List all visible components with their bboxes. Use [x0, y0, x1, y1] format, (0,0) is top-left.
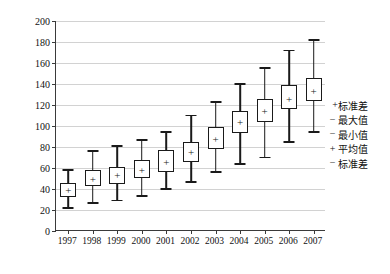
- chart-root: 总电耗（亿 kWh） 020406080100120140160180200 +…: [0, 0, 390, 274]
- boxplot-1999: +: [105, 21, 130, 230]
- x-axis-tick: [216, 230, 217, 234]
- legend-label: 标准差: [338, 98, 368, 113]
- mean-marker: +: [286, 93, 292, 104]
- boxplot-series: +++++++++++: [56, 21, 325, 230]
- mean-marker: +: [311, 86, 317, 97]
- x-axis-tick-label: 2004: [230, 236, 249, 246]
- mean-marker: +: [212, 133, 218, 144]
- legend-symbol: −: [327, 115, 338, 125]
- mean-marker: +: [237, 116, 243, 127]
- max-cap: [185, 115, 196, 117]
- y-axis-tick-label: 20: [10, 205, 50, 216]
- boxplot-2001: +: [154, 21, 179, 230]
- x-axis-tick: [117, 230, 118, 234]
- legend-item-标准差: −标准差: [327, 156, 389, 171]
- max-cap: [259, 67, 270, 69]
- legend-item-平均值: +平均值: [327, 142, 389, 157]
- x-axis-tick-label: 2005: [254, 236, 273, 246]
- min-cap: [185, 181, 196, 183]
- mean-marker: +: [188, 147, 194, 158]
- mean-marker: +: [262, 106, 268, 117]
- mean-marker: +: [65, 185, 71, 196]
- x-axis-tick-label: 2003: [205, 236, 224, 246]
- max-cap: [210, 101, 221, 103]
- legend-label: 最大值: [338, 112, 368, 127]
- legend-item-标准差: +标准差: [327, 98, 389, 113]
- min-cap: [63, 207, 74, 209]
- max-cap: [235, 83, 246, 85]
- boxplot-1998: +: [81, 21, 106, 230]
- max-cap: [161, 131, 172, 133]
- legend-symbol: −: [327, 158, 338, 168]
- x-axis-tick: [314, 230, 315, 234]
- max-cap: [63, 169, 74, 171]
- max-cap: [284, 50, 295, 52]
- mean-marker: +: [163, 156, 169, 167]
- legend-symbol: +: [327, 144, 338, 154]
- x-axis-tick-label: 2007: [303, 236, 322, 246]
- mean-marker: +: [90, 173, 96, 184]
- x-axis-tick: [240, 230, 241, 234]
- mean-marker: +: [139, 165, 145, 176]
- x-axis-tick: [265, 230, 266, 234]
- min-cap: [259, 157, 270, 159]
- x-axis-tick-label: 2006: [279, 236, 298, 246]
- y-axis-tick-label: 80: [10, 142, 50, 153]
- y-axis-tick-label: 100: [10, 121, 50, 132]
- y-axis-tick-label: 120: [10, 100, 50, 111]
- mean-marker: +: [114, 170, 120, 181]
- boxplot-2005: +: [252, 21, 277, 230]
- min-cap: [112, 200, 123, 202]
- min-cap: [308, 131, 319, 133]
- y-axis-tick-label: 60: [10, 163, 50, 174]
- y-axis-tick-labels: 020406080100120140160180200: [6, 21, 50, 231]
- max-cap: [112, 145, 123, 147]
- legend-label: 平均值: [338, 141, 368, 156]
- x-axis-tick: [93, 230, 94, 234]
- min-cap: [235, 163, 246, 165]
- y-axis-tick-label: 200: [10, 16, 50, 27]
- chart-legend: +标准差−最大值−最小值+平均值−标准差: [327, 98, 389, 171]
- legend-item-最小值: −最小值: [327, 127, 389, 142]
- legend-symbol: +: [327, 100, 338, 110]
- x-axis-tick: [142, 230, 143, 234]
- y-axis-tick-label: 180: [10, 37, 50, 48]
- boxplot-2003: +: [203, 21, 228, 230]
- min-cap: [210, 171, 221, 173]
- max-cap: [136, 139, 147, 141]
- x-axis-tick-label: 1998: [82, 236, 101, 246]
- boxplot-1997: +: [56, 21, 81, 230]
- y-axis-tick-label: 40: [10, 184, 50, 195]
- x-axis-tick: [68, 230, 69, 234]
- x-axis-tick: [166, 230, 167, 234]
- y-axis-tick-label: 140: [10, 79, 50, 90]
- plot-area: +++++++++++: [55, 21, 325, 231]
- y-axis-tick-label: 160: [10, 58, 50, 69]
- legend-item-最大值: −最大值: [327, 113, 389, 128]
- legend-label: 最小值: [338, 127, 368, 142]
- x-axis-tick-label: 1997: [58, 236, 77, 246]
- max-cap: [87, 150, 98, 152]
- boxplot-2006: +: [277, 21, 302, 230]
- legend-symbol: −: [327, 129, 338, 139]
- min-cap: [161, 188, 172, 190]
- x-axis-tick: [191, 230, 192, 234]
- x-axis-tick-label: 2002: [181, 236, 200, 246]
- boxplot-2007: +: [301, 21, 326, 230]
- max-cap: [308, 39, 319, 41]
- x-axis-tick-label: 1999: [107, 236, 126, 246]
- min-cap: [136, 195, 147, 197]
- y-axis-tick-label: 0: [10, 226, 50, 237]
- x-axis-tick-label: 2001: [156, 236, 175, 246]
- min-cap: [284, 141, 295, 143]
- legend-label: 标准差: [338, 156, 368, 171]
- min-cap: [87, 202, 98, 204]
- boxplot-2000: +: [130, 21, 155, 230]
- boxplot-2004: +: [228, 21, 253, 230]
- x-axis-tick: [289, 230, 290, 234]
- boxplot-2002: +: [179, 21, 204, 230]
- x-axis-tick-label: 2000: [131, 236, 150, 246]
- y-axis-tick: [52, 231, 56, 232]
